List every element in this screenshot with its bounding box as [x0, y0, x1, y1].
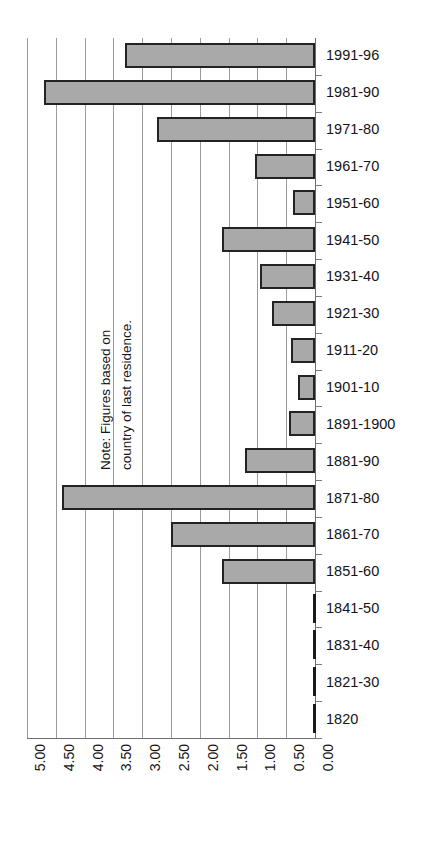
bar-1831-40 — [313, 630, 316, 659]
x-tick-label-4.50: 4.50 — [62, 744, 76, 771]
bar-row — [27, 38, 315, 75]
category-label-1941-50: 1941-50 — [326, 233, 379, 248]
x-tick-label-2.00: 2.00 — [206, 744, 220, 771]
category-label-1861-70: 1861-70 — [326, 527, 379, 542]
category-tick — [316, 517, 322, 518]
category-tick — [316, 333, 322, 334]
category-label-1821-30: 1821-30 — [326, 675, 379, 690]
bar-row — [27, 591, 315, 628]
category-label-1881-90: 1881-90 — [326, 454, 379, 469]
category-tick — [316, 406, 322, 407]
x-tick-label-1.00: 1.00 — [263, 744, 277, 771]
x-tick-label-0.00: 0.00 — [321, 744, 335, 771]
category-tick — [316, 370, 322, 371]
bar-1871-80 — [62, 485, 315, 510]
bar-1881-90 — [245, 448, 315, 473]
bar-row — [27, 259, 315, 296]
bar-row — [27, 185, 315, 222]
chart-note-line-1: Note: Figures based on — [96, 240, 117, 470]
x-axis-line — [27, 738, 316, 739]
category-tick — [316, 554, 322, 555]
x-tick-label-0.50: 0.50 — [292, 744, 306, 771]
category-label-1891-1900: 1891-1900 — [326, 417, 395, 432]
category-label-1971-80: 1971-80 — [326, 122, 379, 137]
x-tick-label-1.50: 1.50 — [235, 744, 249, 771]
bar-1841-50 — [313, 594, 316, 623]
category-tick — [316, 480, 322, 481]
category-tick — [316, 664, 322, 665]
category-label-1951-60: 1951-60 — [326, 196, 379, 211]
chart-note-line-2: country of last residence. — [117, 240, 138, 470]
category-tick — [316, 591, 322, 592]
category-tick — [316, 75, 322, 76]
bar-1891-1900 — [289, 411, 315, 436]
bar-1820 — [313, 704, 316, 733]
x-tick-label-3.00: 3.00 — [148, 744, 162, 771]
bar-1991-96 — [125, 43, 315, 68]
bar-1951-60 — [293, 190, 315, 215]
chart-note: Note: Figures based on country of last r… — [96, 240, 138, 470]
x-tick-label-2.50: 2.50 — [177, 744, 191, 771]
category-tick — [316, 259, 322, 260]
bar-row — [27, 370, 315, 407]
bar-1851-60 — [222, 559, 315, 584]
bar-row — [27, 222, 315, 259]
bar-1921-30 — [272, 301, 315, 326]
category-tick — [316, 149, 322, 150]
bar-1981-90 — [44, 80, 315, 105]
bar-row — [27, 333, 315, 370]
bar-1931-40 — [260, 264, 315, 289]
category-label-1841-50: 1841-50 — [326, 601, 379, 616]
category-label-1851-60: 1851-60 — [326, 564, 379, 579]
category-label-1991-96: 1991-96 — [326, 48, 379, 63]
x-tick-label-3.50: 3.50 — [119, 744, 133, 771]
category-label-1981-90: 1981-90 — [326, 85, 379, 100]
category-label-1901-10: 1901-10 — [326, 380, 379, 395]
category-tick — [316, 738, 322, 739]
bar-row — [27, 627, 315, 664]
category-label-1831-40: 1831-40 — [326, 638, 379, 653]
category-label-1871-80: 1871-80 — [326, 491, 379, 506]
bar-1821-30 — [313, 667, 316, 696]
bar-row — [27, 443, 315, 480]
x-tick-label-4.00: 4.00 — [91, 744, 105, 771]
category-label-1931-40: 1931-40 — [326, 269, 379, 284]
category-label-1911-20: 1911-20 — [326, 343, 378, 358]
bar-row — [27, 406, 315, 443]
bar-1941-50 — [222, 227, 315, 252]
category-tick — [316, 627, 322, 628]
category-tick — [316, 222, 322, 223]
category-label-1820: 1820 — [326, 712, 358, 727]
bar-row — [27, 664, 315, 701]
bar-1961-70 — [255, 154, 315, 179]
bar-1861-70 — [171, 522, 315, 547]
category-label-1961-70: 1961-70 — [326, 159, 379, 174]
bar-row — [27, 296, 315, 333]
bar-row — [27, 701, 315, 738]
plot-area — [27, 38, 315, 738]
bar-row — [27, 480, 315, 517]
bar-row — [27, 149, 315, 186]
x-tick-label-5.00: 5.00 — [33, 744, 47, 771]
bar-row — [27, 517, 315, 554]
category-tick — [316, 185, 322, 186]
bar-row — [27, 112, 315, 149]
category-label-1921-30: 1921-30 — [326, 306, 379, 321]
category-tick — [316, 443, 322, 444]
bar-1911-20 — [291, 338, 315, 363]
bar-row — [27, 75, 315, 112]
category-tick — [316, 701, 322, 702]
immigration-bar-chart: 1991-961981-901971-801961-701951-601941-… — [0, 0, 426, 843]
bar-1971-80 — [157, 117, 315, 142]
category-tick — [316, 112, 322, 113]
bar-row — [27, 554, 315, 591]
bar-1901-10 — [298, 375, 315, 400]
category-tick — [316, 296, 322, 297]
